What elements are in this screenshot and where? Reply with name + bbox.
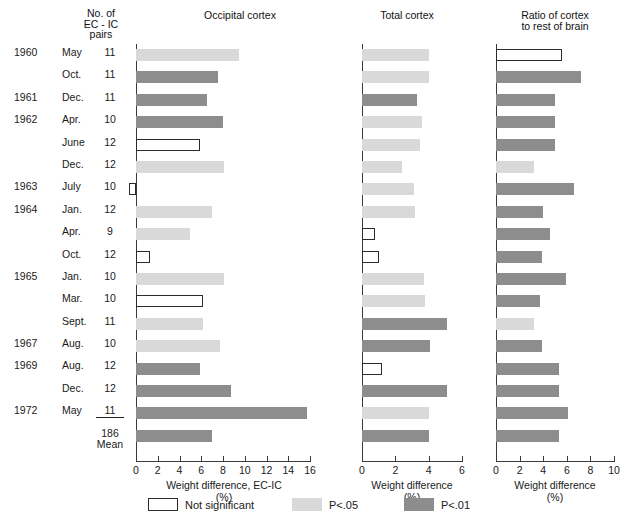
x-axis-tick-label: 6 <box>191 464 211 476</box>
legend-label: P<.05 <box>329 499 358 511</box>
x-axis-tick <box>543 456 544 461</box>
x-axis-tick-label: 2 <box>510 464 530 476</box>
row-label: Dec.12 <box>0 380 132 402</box>
row-label: Apr.9 <box>0 223 132 245</box>
row-pairs: 9 <box>96 225 124 237</box>
bar <box>136 161 224 173</box>
row-pairs: 12 <box>96 382 124 394</box>
row-pairs: 10 <box>96 270 124 282</box>
bar <box>496 94 555 106</box>
row-label-column: 1960May11Oct.111961Dec.111962Apr.10June1… <box>0 44 132 447</box>
row-pairs: 10 <box>96 113 124 125</box>
bar <box>496 139 555 151</box>
row-pairs: 11 <box>96 46 124 58</box>
x-axis-line <box>362 461 463 462</box>
row-pairs: 10 <box>96 180 124 192</box>
x-axis-tick-label: 4 <box>533 464 553 476</box>
row-year: 1965 <box>14 270 54 282</box>
row-pairs: 11 <box>96 315 124 327</box>
legend-swatch <box>148 498 178 511</box>
bar <box>136 251 150 263</box>
row-label: 1960May11 <box>0 44 132 66</box>
bar <box>136 430 212 442</box>
x-axis-tick <box>496 456 497 461</box>
legend-label: Not significant <box>185 499 254 511</box>
x-axis-tick <box>180 456 181 461</box>
x-axis-tick-label: 8 <box>213 464 233 476</box>
legend-swatch <box>292 498 322 511</box>
row-label: 1967Aug.10 <box>0 335 132 357</box>
row-month: July <box>62 180 96 192</box>
pairs-header-line3: pairs <box>72 29 130 40</box>
x-axis-title-line1: Weight difference, EC-IC <box>124 479 324 491</box>
row-label: June12 <box>0 134 132 156</box>
x-axis-tick-label: 12 <box>257 464 277 476</box>
x-axis-tick-label: 2 <box>385 464 405 476</box>
bar <box>362 228 375 240</box>
column-header-pairs: No. of EC - IC pairs <box>72 8 130 40</box>
row-month: Dec. <box>62 382 96 394</box>
bar <box>362 363 382 375</box>
x-axis-tick <box>395 456 396 461</box>
bar <box>362 94 417 106</box>
bar <box>496 49 562 61</box>
bar <box>496 273 566 285</box>
row-month: Mar. <box>62 292 96 304</box>
bar <box>136 363 200 375</box>
row-month: Oct. <box>62 248 96 260</box>
bar <box>129 183 136 195</box>
bar <box>136 318 203 330</box>
bar <box>362 49 429 61</box>
row-year: 1967 <box>14 337 54 349</box>
bar <box>136 385 231 397</box>
row-pairs: 11 <box>96 404 124 418</box>
x-axis-tick-label: 16 <box>300 464 320 476</box>
bar <box>136 206 212 218</box>
x-axis-tick <box>520 456 521 461</box>
x-axis-tick-label: 4 <box>419 464 439 476</box>
row-label: Mar.10 <box>0 290 132 312</box>
row-label: 1961Dec.11 <box>0 89 132 111</box>
row-year: 1961 <box>14 91 54 103</box>
bar <box>136 340 220 352</box>
bar <box>496 430 559 442</box>
x-axis-title-line2: (%) <box>480 491 630 503</box>
x-axis-tick <box>136 456 137 461</box>
x-axis-tick-label: 4 <box>170 464 190 476</box>
legend-swatch <box>404 498 434 511</box>
bar <box>496 318 534 330</box>
row-month: Dec. <box>62 158 96 170</box>
legend-item: P<.05 <box>292 498 358 511</box>
x-axis-tick <box>158 456 159 461</box>
row-month: May <box>62 46 96 58</box>
x-axis-tick <box>590 456 591 461</box>
row-label: 186Mean <box>0 425 132 447</box>
row-year: 1964 <box>14 203 54 215</box>
x-axis-tick <box>245 456 246 461</box>
legend-item: P<.01 <box>404 498 470 511</box>
row-pairs: 10 <box>96 292 124 304</box>
bar <box>362 430 429 442</box>
row-month: Sept. <box>62 315 96 327</box>
row-pairs: 12 <box>96 359 124 371</box>
bar <box>362 295 425 307</box>
bar <box>362 407 429 419</box>
bar <box>496 385 559 397</box>
bar-chart-figure: No. of EC - IC pairs Occipital cortex To… <box>0 0 640 529</box>
x-axis-title-line1: Weight difference <box>337 479 487 491</box>
x-axis-tick <box>567 456 568 461</box>
bar <box>362 206 415 218</box>
x-axis-tick-label: 10 <box>235 464 255 476</box>
x-axis-tick-label: 6 <box>557 464 577 476</box>
row-month: Dec. <box>62 91 96 103</box>
panel-title-ratio: Ratio of cortex to rest of brain <box>490 10 620 31</box>
panel-title-total: Total cortex <box>352 10 462 21</box>
row-pairs: 10 <box>96 337 124 349</box>
x-axis-tick <box>614 456 615 461</box>
bar <box>362 340 430 352</box>
x-axis-title-line1: Weight difference <box>480 479 630 491</box>
bar <box>362 139 420 151</box>
legend-label: P<.01 <box>441 499 470 511</box>
pairs-header-line1: No. of <box>72 8 130 19</box>
x-axis-tick-label: 8 <box>580 464 600 476</box>
